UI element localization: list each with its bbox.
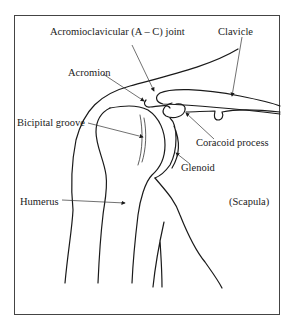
label-scapula: (Scapula) bbox=[229, 196, 269, 208]
humeral-head bbox=[96, 108, 110, 283]
leader-clavicle bbox=[232, 37, 242, 96]
label-coracoid-process: Coracoid process bbox=[196, 137, 269, 149]
groove-line bbox=[138, 115, 146, 165]
label-glenoid: Glenoid bbox=[181, 162, 215, 174]
scapula-border bbox=[155, 178, 222, 288]
label-humerus: Humerus bbox=[20, 196, 59, 208]
leader-coracoid bbox=[186, 113, 214, 139]
leader-humerus bbox=[62, 200, 125, 203]
label-bicipital-groove: Bicipital groove bbox=[17, 117, 85, 129]
scapula-lines bbox=[153, 222, 164, 287]
label-acromion: Acromion bbox=[68, 67, 111, 79]
shoulder-illustration bbox=[0, 0, 293, 330]
glenoid-rim bbox=[155, 118, 178, 178]
label-ac-joint: Acromioclavicular (A – C) joint bbox=[50, 26, 185, 38]
label-clavicle: Clavicle bbox=[218, 26, 253, 38]
